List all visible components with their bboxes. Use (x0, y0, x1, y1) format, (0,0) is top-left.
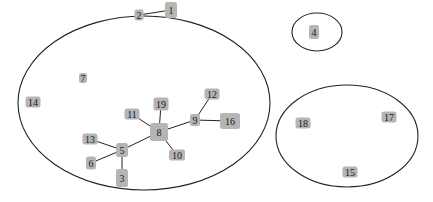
node-label: 16 (225, 116, 235, 127)
node-7[interactable]: 7 (79, 73, 87, 84)
node-label: 19 (156, 99, 166, 110)
node-19[interactable]: 19 (154, 98, 169, 111)
node-label: 11 (127, 109, 137, 120)
node-label: 12 (207, 89, 217, 100)
node-6[interactable]: 6 (86, 157, 96, 170)
node-label: 13 (85, 134, 95, 145)
node-label: 15 (345, 167, 355, 178)
node-label: 17 (384, 112, 394, 123)
node-label: 7 (81, 73, 86, 84)
node-2[interactable]: 2 (135, 10, 144, 22)
node-5[interactable]: 5 (116, 143, 128, 157)
node-label: 10 (172, 150, 182, 161)
node-16[interactable]: 16 (220, 113, 240, 129)
node-label: 4 (312, 27, 317, 38)
node-label: 2 (137, 10, 142, 21)
node-1[interactable]: 1 (165, 2, 177, 18)
node-label: 14 (28, 97, 38, 108)
cluster-main (18, 16, 270, 190)
node-12[interactable]: 12 (205, 89, 220, 101)
node-4[interactable]: 4 (309, 25, 319, 39)
node-11[interactable]: 11 (125, 109, 140, 121)
node-3[interactable]: 3 (116, 169, 128, 187)
node-8[interactable]: 8 (150, 123, 168, 141)
node-14[interactable]: 14 (26, 97, 41, 109)
node-13[interactable]: 13 (83, 134, 98, 146)
node-17[interactable]: 17 (382, 112, 397, 124)
node-label: 3 (120, 173, 125, 184)
node-label: 1 (169, 5, 174, 16)
node-label: 6 (89, 158, 94, 169)
node-15[interactable]: 15 (343, 167, 358, 179)
node-18[interactable]: 18 (296, 118, 311, 130)
node-label: 5 (120, 145, 125, 156)
clusters (18, 13, 418, 190)
node-10[interactable]: 10 (169, 150, 185, 162)
node-label: 9 (193, 115, 198, 126)
node-label: 8 (157, 127, 162, 138)
network-diagram: 12345678910111213141516171819 (0, 0, 433, 202)
node-9[interactable]: 9 (190, 114, 200, 126)
node-label: 18 (298, 118, 308, 129)
